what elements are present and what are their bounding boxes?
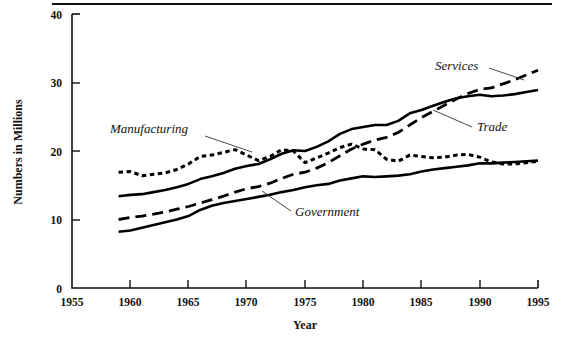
y-tick-label-0: 0 bbox=[56, 283, 62, 295]
x-tick-label-1980: 1980 bbox=[352, 296, 375, 308]
chart-svg: Numbers in Millions 40 30 20 10 0 1955 1… bbox=[0, 0, 563, 337]
x-tick-label-1960: 1960 bbox=[119, 296, 142, 308]
y-tick-label-30: 30 bbox=[51, 77, 63, 89]
series-line-trade bbox=[119, 90, 538, 196]
y-tick-label-40: 40 bbox=[51, 9, 63, 21]
x-axis-title: Year bbox=[293, 318, 318, 332]
y-axis-title: Numbers in Millions bbox=[11, 99, 25, 205]
y-tick-label-20: 20 bbox=[51, 146, 63, 158]
x-tick-label-1975: 1975 bbox=[294, 296, 317, 308]
leader-line-trade bbox=[433, 110, 472, 127]
series-label-trade: Trade bbox=[477, 119, 508, 134]
series-line-manufacturing bbox=[119, 144, 538, 176]
x-tick-label-1990: 1990 bbox=[469, 296, 492, 308]
series-label-services: Services bbox=[435, 58, 478, 73]
series-label-government: Government bbox=[295, 204, 360, 219]
y-tick-label-10: 10 bbox=[51, 214, 63, 226]
x-tick-label-1970: 1970 bbox=[235, 296, 258, 308]
series-line-services bbox=[119, 70, 538, 219]
line-chart: Numbers in Millions 40 30 20 10 0 1955 1… bbox=[0, 0, 563, 337]
x-tick-label-1985: 1985 bbox=[410, 296, 433, 308]
leader-line-services bbox=[489, 68, 524, 80]
series-line-government bbox=[119, 161, 538, 232]
x-tick-label-1995: 1995 bbox=[527, 296, 550, 308]
leader-line-manufacturing bbox=[205, 136, 252, 152]
series-label-manufacturing: Manufacturing bbox=[109, 121, 188, 136]
x-tick-label-1965: 1965 bbox=[177, 296, 200, 308]
x-tick-label-1955: 1955 bbox=[61, 296, 84, 308]
